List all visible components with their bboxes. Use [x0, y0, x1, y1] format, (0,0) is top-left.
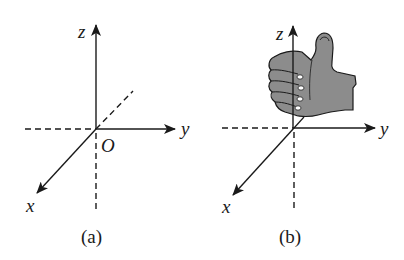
x-axis: [233, 128, 294, 195]
x-axis-label: x: [25, 195, 35, 216]
x-axis-hidden-segment: [294, 117, 304, 128]
y-axis-label: y: [179, 118, 190, 139]
panel-b: z y x (b): [221, 23, 389, 248]
caption-b: (b): [279, 226, 301, 248]
y-axis-label: y: [378, 118, 389, 139]
x-axis: [37, 129, 96, 193]
coordinate-diagram: z y x O (a) z y: [0, 0, 404, 260]
origin-label: O: [101, 135, 115, 156]
panel-a: z y x O (a): [25, 21, 190, 248]
right-hand-thumbs-up-icon: [269, 33, 356, 117]
z-axis-label: z: [275, 23, 284, 44]
x-axis-label: x: [221, 196, 231, 217]
x-axis-negative-dashed: [96, 91, 133, 129]
caption-a: (a): [81, 226, 102, 248]
z-axis-label: z: [77, 21, 86, 42]
